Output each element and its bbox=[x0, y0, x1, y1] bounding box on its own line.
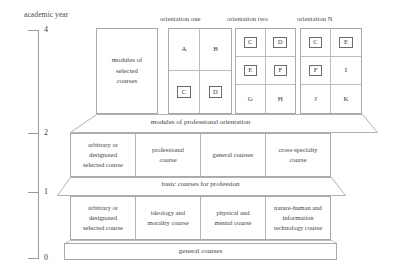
module-letter-J: J bbox=[314, 96, 317, 103]
orientation-two-heading: orientation two bbox=[227, 15, 268, 22]
modules-of-selected-courses-label: modules ofselectedcourses bbox=[112, 55, 142, 87]
axis-tick-4 bbox=[28, 30, 39, 31]
professional-course-label: professionalcourse bbox=[152, 145, 184, 165]
modules-of-professional-orientation-band: modules of professional orientation bbox=[0, 114, 401, 133]
orientation-cell: B bbox=[200, 29, 231, 71]
orientation-n-heading: orientation N bbox=[297, 15, 333, 22]
orientation-cell: D bbox=[200, 71, 231, 113]
basic-course-cell: nature-human andinformationtechnology co… bbox=[266, 197, 330, 239]
basic-courses-for-profession-band: basic courses for profession bbox=[0, 177, 401, 196]
modules-of-professional-orientation-label: modules of professional orientation bbox=[0, 118, 401, 126]
axis-tick-2 bbox=[28, 133, 39, 134]
basic-courses-row: arbitrary ordesignatedselected courseide… bbox=[70, 196, 331, 240]
module-letter-F-boxed: F bbox=[274, 65, 287, 77]
module-letter-F-boxed: F bbox=[309, 65, 322, 77]
basic-course-cell: arbitrary ordesignatedselected course bbox=[71, 197, 136, 239]
module-letter-C-boxed: C bbox=[309, 37, 322, 49]
professional-course-cell: professionalcourse bbox=[136, 134, 201, 176]
orientation-cell: C bbox=[301, 29, 331, 57]
professional-course-cell: arbitrary ordesignatedselected course bbox=[71, 134, 136, 176]
orientation-cell: G bbox=[236, 85, 266, 113]
orientation-cell: E bbox=[236, 57, 266, 85]
orientation-cell: J bbox=[301, 85, 331, 113]
orientation-cell: K bbox=[331, 85, 361, 113]
module-letter-A: A bbox=[181, 46, 186, 53]
professional-course-cell: general courses bbox=[201, 134, 266, 176]
orientation-two-block: CDEFGH bbox=[235, 28, 296, 114]
module-letter-C-boxed: C bbox=[177, 86, 190, 98]
basic-course-label: ideology andmorality course bbox=[147, 208, 188, 228]
professional-course-cell: cross-specialtycourse bbox=[266, 134, 330, 176]
module-letter-D-boxed: D bbox=[209, 86, 223, 98]
professional-course-label: general courses bbox=[213, 150, 254, 160]
module-letter-K: K bbox=[343, 96, 348, 103]
basic-course-label: arbitrary ordesignatedselected course bbox=[83, 203, 123, 233]
axis-title: academic year bbox=[24, 10, 68, 19]
module-letter-G: G bbox=[248, 96, 253, 103]
orientation-cell: A bbox=[169, 29, 200, 71]
module-letter-E-boxed: E bbox=[244, 65, 257, 77]
axis-tick-label-4: 4 bbox=[44, 26, 48, 34]
basic-course-label: physical andmental course bbox=[215, 208, 252, 228]
module-letter-E-boxed: E bbox=[339, 37, 352, 49]
module-letter-I: I bbox=[345, 67, 347, 74]
curriculum-structure-diagram: academic year 4210 modules ofselectedcou… bbox=[0, 0, 401, 274]
orientation-cell: F bbox=[266, 57, 296, 85]
orientation-cell: F bbox=[301, 57, 331, 85]
module-letter-H: H bbox=[278, 96, 283, 103]
orientation-cell: D bbox=[266, 29, 296, 57]
basic-course-cell: physical andmental course bbox=[201, 197, 266, 239]
module-letter-D-boxed: D bbox=[273, 37, 287, 49]
module-letter-C-boxed: C bbox=[244, 37, 257, 49]
axis-tick-0 bbox=[28, 258, 39, 259]
general-courses-row: general courses bbox=[64, 243, 337, 260]
academic-year-axis-line bbox=[38, 30, 39, 258]
basic-course-cell: ideology andmorality course bbox=[136, 197, 201, 239]
professional-course-label: cross-specialtycourse bbox=[278, 145, 317, 165]
orientation-cell: C bbox=[236, 29, 266, 57]
orientation-cell: E bbox=[331, 29, 361, 57]
basic-course-label: nature-human andinformationtechnology co… bbox=[274, 203, 322, 233]
orientation-one-block: ABCD bbox=[168, 28, 232, 114]
modules-of-selected-courses-box: modules ofselectedcourses bbox=[96, 28, 158, 114]
module-letter-B: B bbox=[213, 46, 218, 53]
orientation-n-block: CEFIJK bbox=[300, 28, 362, 114]
professional-orientation-row: arbitrary ordesignatedselected coursepro… bbox=[70, 133, 331, 177]
orientation-cell: H bbox=[266, 85, 296, 113]
axis-tick-label-0: 0 bbox=[44, 254, 48, 262]
general-courses-label: general courses bbox=[179, 246, 222, 257]
orientation-one-heading: orientation one bbox=[160, 15, 200, 22]
orientation-cell: I bbox=[331, 57, 361, 85]
orientation-cell: C bbox=[169, 71, 200, 113]
professional-course-label: arbitrary ordesignatedselected course bbox=[83, 140, 123, 170]
basic-courses-for-profession-label: basic courses for profession bbox=[0, 180, 401, 188]
